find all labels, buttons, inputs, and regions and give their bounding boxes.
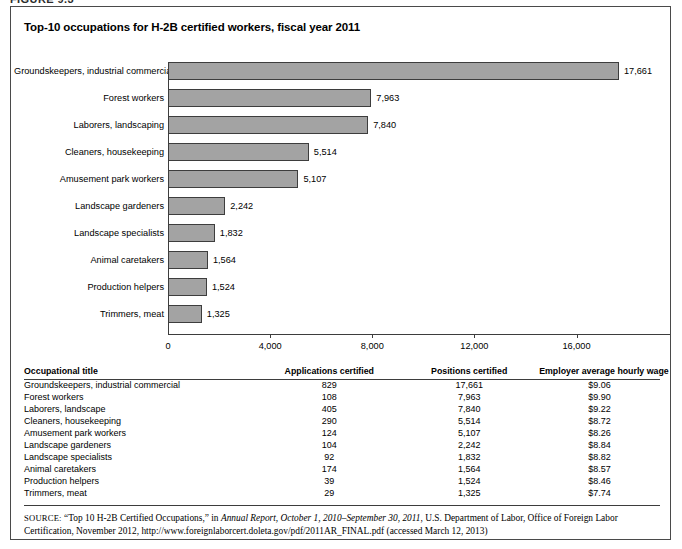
cell-hourly-wage: $8.72 bbox=[539, 416, 660, 428]
cell-hourly-wage: $8.57 bbox=[539, 464, 660, 476]
figure-caption-text: FIGURE 9.3 bbox=[10, 0, 128, 5]
x-axis-line bbox=[168, 334, 670, 335]
table-body: Groundskeepers, industrial commercial829… bbox=[24, 380, 660, 503]
bar bbox=[168, 62, 619, 80]
cell-hourly-wage: $8.26 bbox=[539, 428, 660, 440]
bar bbox=[168, 305, 202, 323]
cell-positions-certified: 1,564 bbox=[399, 464, 539, 476]
table-row: Landscape specialists921,832$8.82 bbox=[24, 452, 660, 464]
bar-category-label: Trimmers, meat bbox=[14, 305, 164, 323]
cell-hourly-wage: $9.06 bbox=[539, 380, 660, 392]
cell-occupational-title: Cleaners, housekeeping bbox=[24, 416, 259, 428]
column-header-applications-certified: Applications certified bbox=[259, 365, 399, 380]
cell-positions-certified: 1,325 bbox=[399, 488, 539, 503]
bar-category-label: Forest workers bbox=[14, 89, 164, 107]
bar-value-label: 5,514 bbox=[314, 143, 337, 161]
table-bottom-rule bbox=[24, 505, 660, 506]
table-row: Groundskeepers, industrial commercial829… bbox=[24, 380, 660, 392]
bar bbox=[168, 197, 225, 215]
cell-hourly-wage: $8.46 bbox=[539, 476, 660, 488]
cell-occupational-title: Trimmers, meat bbox=[24, 488, 259, 503]
bar-row: Laborers, landscaping7,840 bbox=[11, 116, 672, 134]
page-title: Top-10 occupations for H-2B certified wo… bbox=[24, 21, 360, 33]
bar-value-label: 1,524 bbox=[212, 278, 235, 296]
cell-positions-certified: 5,107 bbox=[399, 428, 539, 440]
cell-applications-certified: 92 bbox=[259, 452, 399, 464]
cell-positions-certified: 5,514 bbox=[399, 416, 539, 428]
cell-positions-certified: 2,242 bbox=[399, 440, 539, 452]
bar-row: Trimmers, meat1,325 bbox=[11, 305, 672, 323]
column-header-occupational-title: Occupational title bbox=[24, 365, 259, 380]
cell-positions-certified: 7,963 bbox=[399, 392, 539, 404]
cell-occupational-title: Groundskeepers, industrial commercial bbox=[24, 380, 259, 392]
data-table: Occupational title Applications certifie… bbox=[24, 365, 660, 502]
column-header-positions-certified: Positions certified bbox=[399, 365, 539, 380]
bar-category-label: Animal caretakers bbox=[14, 251, 164, 269]
cell-occupational-title: Landscape specialists bbox=[24, 452, 259, 464]
cell-occupational-title: Animal caretakers bbox=[24, 464, 259, 476]
bar bbox=[168, 224, 215, 242]
bar-value-label: 5,107 bbox=[303, 170, 326, 188]
x-axis-tick-label: 4,000 bbox=[259, 341, 282, 351]
bar-category-label: Landscape gardeners bbox=[14, 197, 164, 215]
bar-value-label: 1,832 bbox=[220, 224, 243, 242]
table-row: Laborers, landscape4057,840$9.22 bbox=[24, 404, 660, 416]
cell-occupational-title: Landscape gardeners bbox=[24, 440, 259, 452]
cell-applications-certified: 104 bbox=[259, 440, 399, 452]
source-note: SOURCE: “Top 10 H-2B Certified Occupatio… bbox=[24, 512, 666, 539]
x-axis-tick-label: 12,000 bbox=[460, 341, 488, 351]
bar bbox=[168, 89, 371, 107]
x-axis-tick bbox=[270, 334, 271, 338]
bar bbox=[168, 143, 309, 161]
bar-value-label: 7,840 bbox=[373, 116, 396, 134]
cell-hourly-wage: $8.84 bbox=[539, 440, 660, 452]
bar-value-label: 7,963 bbox=[376, 89, 399, 107]
cell-positions-certified: 7,840 bbox=[399, 404, 539, 416]
bar bbox=[168, 251, 208, 269]
table-row: Production helpers391,524$8.46 bbox=[24, 476, 660, 488]
cell-hourly-wage: $9.90 bbox=[539, 392, 660, 404]
cell-positions-certified: 17,661 bbox=[399, 380, 539, 392]
bar bbox=[168, 170, 298, 188]
bar-category-label: Landscape specialists bbox=[14, 224, 164, 242]
cell-positions-certified: 1,832 bbox=[399, 452, 539, 464]
bar-chart: Groundskeepers, industrial commercial17,… bbox=[11, 57, 672, 362]
table-row: Forest workers1087,963$9.90 bbox=[24, 392, 660, 404]
bar bbox=[168, 116, 368, 134]
x-axis-tick-label: 0 bbox=[165, 341, 170, 351]
bar-row: Groundskeepers, industrial commercial17,… bbox=[11, 62, 672, 80]
source-report-title: Annual Report, October 1, 2010–September… bbox=[221, 513, 421, 523]
cell-applications-certified: 108 bbox=[259, 392, 399, 404]
table-header-row: Occupational title Applications certifie… bbox=[24, 365, 660, 380]
cell-applications-certified: 124 bbox=[259, 428, 399, 440]
cell-applications-certified: 829 bbox=[259, 380, 399, 392]
bar-row: Animal caretakers1,564 bbox=[11, 251, 672, 269]
cell-applications-certified: 39 bbox=[259, 476, 399, 488]
x-axis-tick bbox=[372, 334, 373, 338]
bar-category-label: Cleaners, housekeeping bbox=[14, 143, 164, 161]
cell-occupational-title: Laborers, landscape bbox=[24, 404, 259, 416]
figure-caption-cropped: FIGURE 9.3 bbox=[10, 0, 128, 5]
table-row: Amusement park workers1245,107$8.26 bbox=[24, 428, 660, 440]
cell-hourly-wage: $9.22 bbox=[539, 404, 660, 416]
table-row: Animal caretakers1741,564$8.57 bbox=[24, 464, 660, 476]
cell-applications-certified: 290 bbox=[259, 416, 399, 428]
x-axis-tick-label: 8,000 bbox=[361, 341, 384, 351]
bar-row: Cleaners, housekeeping5,514 bbox=[11, 143, 672, 161]
bar-value-label: 2,242 bbox=[230, 197, 253, 215]
bar-category-label: Groundskeepers, industrial commercial bbox=[14, 62, 164, 80]
bar-row: Amusement park workers5,107 bbox=[11, 170, 672, 188]
table-row: Landscape gardeners1042,242$8.84 bbox=[24, 440, 660, 452]
bar-value-label: 17,661 bbox=[624, 62, 652, 80]
cell-hourly-wage: $7.74 bbox=[539, 488, 660, 503]
x-axis-tick bbox=[474, 334, 475, 338]
cell-occupational-title: Production helpers bbox=[24, 476, 259, 488]
column-header-employer-average-hourly-wage: Employer average hourly wage bbox=[539, 365, 660, 380]
bar-category-label: Production helpers bbox=[14, 278, 164, 296]
x-axis-tick-label: 16,000 bbox=[562, 341, 590, 351]
bar-value-label: 1,325 bbox=[207, 305, 230, 323]
cell-applications-certified: 29 bbox=[259, 488, 399, 503]
cell-occupational-title: Amusement park workers bbox=[24, 428, 259, 440]
bar-row: Forest workers7,963 bbox=[11, 89, 672, 107]
cell-applications-certified: 174 bbox=[259, 464, 399, 476]
